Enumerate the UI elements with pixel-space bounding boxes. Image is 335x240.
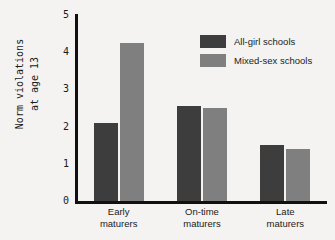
y-tick-label: 2	[55, 121, 69, 132]
x-category-label-line: Early	[79, 206, 159, 218]
x-category-label: Earlymaturers	[79, 206, 159, 230]
legend-label-all-girl-schools: All-girl schools	[234, 36, 295, 47]
bar-chart-figure: Norm violations at age 13 012345 Earlyma…	[0, 0, 335, 240]
y-tick-label: 3	[55, 83, 69, 94]
x-category-label-line: On-time	[162, 206, 242, 218]
x-category-label: On-timematurers	[162, 206, 242, 230]
y-tick-label: 5	[55, 9, 69, 20]
legend-item-mixed-sex-schools: Mixed-sex schools	[200, 54, 312, 67]
bar	[286, 149, 310, 201]
x-category-label-line: maturers	[79, 218, 159, 230]
y-tick-label: 4	[55, 46, 69, 57]
bar	[177, 106, 201, 201]
legend-label-mixed-sex-schools: Mixed-sex schools	[234, 55, 312, 66]
y-tick-label: 1	[55, 158, 69, 169]
chart-legend: All-girl schools Mixed-sex schools	[200, 35, 312, 73]
x-category-label: Latematurers	[245, 206, 325, 230]
bar	[94, 123, 118, 201]
x-category-label-line: Late	[245, 206, 325, 218]
x-category-label-line: maturers	[245, 218, 325, 230]
bar	[260, 145, 284, 201]
legend-swatch-all-girl-schools	[200, 35, 226, 48]
bar	[120, 43, 144, 201]
legend-item-all-girl-schools: All-girl schools	[200, 35, 312, 48]
legend-swatch-mixed-sex-schools	[200, 54, 226, 67]
bar	[203, 108, 227, 201]
x-category-label-line: maturers	[162, 218, 242, 230]
y-tick-label: 0	[55, 195, 69, 206]
